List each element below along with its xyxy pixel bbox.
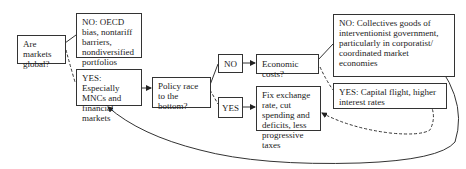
- node-policy-race: Policy race to the bottom?: [152, 77, 211, 108]
- edge-costs-no: [318, 44, 333, 60]
- node-label: Are markets global?: [23, 39, 52, 69]
- node-yes-capital-flight: YES: Capital flight, higher interest rat…: [333, 83, 447, 109]
- node-no-collective-goods: NO: Collectives goods of interventionist…: [333, 14, 455, 77]
- node-are-markets-global: Are markets global?: [17, 35, 66, 64]
- node-race-no: NO: [218, 54, 243, 73]
- flow-diagram: Are markets global? NO: OECD bias, nonta…: [0, 0, 466, 169]
- node-label: NO: Collectives goods of interventionist…: [339, 18, 438, 68]
- node-yes-mncs: YES: Especially MNCs and financial marke…: [76, 69, 142, 106]
- node-label: YES: [222, 103, 239, 113]
- node-label: NO: [224, 59, 237, 69]
- node-label: Policy race to the bottom?: [158, 81, 198, 111]
- edge-global-no: [65, 35, 76, 43]
- edge-global-yes: [66, 50, 75, 82]
- edge-race-yes: [210, 90, 218, 104]
- node-no-oecd-bias: NO: OECD bias, nontariff barriers, nondi…: [76, 13, 142, 58]
- edge-costs-yes: [320, 67, 333, 90]
- edge-race-no: [210, 64, 218, 85]
- node-label: YES: Capital flight, higher interest rat…: [339, 87, 436, 107]
- node-fix-exchange-rate: Fix exchange rate, cut spending and defi…: [256, 86, 321, 131]
- node-economic-costs: Economic costs?: [256, 54, 319, 74]
- node-race-yes: YES: [218, 97, 243, 118]
